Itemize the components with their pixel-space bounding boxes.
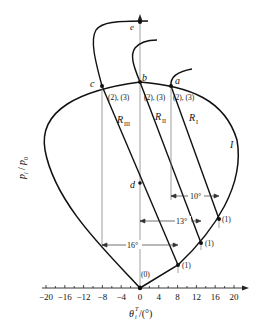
point-e-label: e	[130, 22, 134, 32]
svg-text:/(°): /(°)	[139, 308, 152, 320]
point-b-label: b	[142, 72, 147, 83]
angle-16-label: 16°	[127, 241, 138, 250]
x-axis-title: θ T i /(°)	[129, 306, 152, 320]
x-tick-label: −12	[77, 292, 91, 302]
state-0-label: (0)	[141, 270, 150, 279]
svg-text:i: i	[135, 314, 137, 320]
r2-label: R	[154, 111, 161, 122]
point-d-label: d	[130, 179, 136, 190]
x-tick-label: −20	[39, 292, 54, 302]
svg-text:I: I	[196, 119, 198, 125]
x-tick-label: 12	[192, 292, 201, 302]
svg-text:i: i	[23, 172, 29, 174]
angle-10-label: 10°	[190, 192, 201, 201]
x-tick-label: 16	[211, 292, 221, 302]
state-1-label: (1)	[205, 239, 214, 248]
point-c-label: c	[90, 78, 95, 89]
x-tick-label: −4	[116, 292, 126, 302]
x-tick-label: 20	[230, 292, 240, 302]
state-1-label: (1)	[222, 215, 231, 224]
shock-polar-diagram: −20 −16 −12 −8 −4 0 4 8 12 16 20 θ T i /…	[0, 0, 258, 321]
y-axis-title: p i / p 0	[16, 157, 29, 180]
x-tick-label: 4	[157, 292, 162, 302]
x-axis: −20 −16 −12 −8 −4 0 4 8 12 16 20 θ T i /…	[39, 285, 249, 320]
svg-text:/: /	[16, 167, 27, 170]
svg-text:III: III	[124, 121, 130, 127]
x-tick-label: 0	[138, 292, 143, 302]
x-tick-label: −8	[98, 292, 108, 302]
state-23-label-c: (2), (3)	[108, 93, 130, 102]
svg-text:θ: θ	[129, 308, 134, 319]
r3-label: R	[116, 114, 123, 125]
incident-shock-polar-curve	[44, 82, 238, 288]
x-tick-label: −16	[58, 292, 73, 302]
polar-line-r2	[140, 82, 201, 243]
curve-I-label: I	[229, 139, 234, 150]
svg-text:II: II	[162, 118, 166, 124]
state-23-label-a: (2), (3)	[173, 93, 195, 102]
state-23-label-b: (2), (3)	[144, 93, 166, 102]
svg-text:0: 0	[23, 157, 29, 160]
x-axis-arrow-icon	[242, 286, 249, 291]
point-a-label: a	[175, 75, 180, 86]
state-points	[100, 20, 221, 290]
state-1-label: (1)	[182, 261, 191, 270]
angle-13-label: 13°	[176, 217, 187, 226]
r1-label: R	[188, 112, 195, 123]
y-axis-arrow-icon	[138, 14, 143, 21]
x-tick-label: 8	[175, 292, 180, 302]
